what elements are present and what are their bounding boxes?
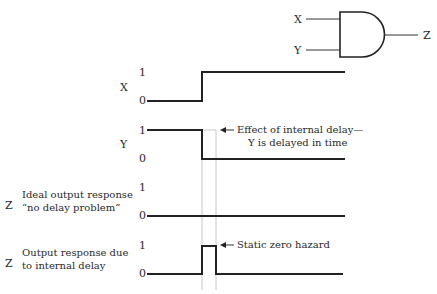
signal-z-ideal-low: 0 [139, 209, 146, 222]
gate-input-y-label: Y [293, 44, 302, 57]
delay-annotation-line1: Effect of internal delay— [237, 124, 363, 135]
signal-y-low: 0 [139, 152, 146, 165]
signal-y-high: 1 [139, 124, 146, 137]
signal-z-delayed-high: 1 [139, 239, 146, 252]
signal-x-low: 0 [139, 94, 146, 107]
signal-x-high: 1 [139, 66, 146, 79]
gate-output-z-label: Z [423, 29, 431, 42]
signal-z-delayed-name: Z [5, 257, 13, 270]
and-gate: X Y Z [293, 12, 431, 57]
signal-z-ideal-name: Z [5, 199, 13, 212]
signal-z-delayed: Z Output response due to internal delay … [5, 239, 343, 280]
signal-z-ideal-high: 1 [139, 181, 146, 194]
delay-annotation-line2: Y is delayed in time [247, 137, 347, 148]
signal-z-delayed-desc1: Output response due [22, 247, 128, 258]
signal-x-name: X [120, 81, 128, 94]
arrow-icon [220, 242, 226, 248]
signal-z-ideal-desc2: “no delay problem” [22, 202, 120, 213]
signal-z-delayed-low: 0 [139, 267, 146, 280]
signal-z-ideal-desc1: Ideal output response [22, 189, 133, 200]
signal-y: Y 1 0 Effect of internal delay— Y is del… [119, 124, 363, 165]
signal-y-name: Y [119, 138, 128, 151]
signal-x: X 1 0 [120, 66, 345, 107]
hazard-annotation: Static zero hazard [237, 239, 330, 250]
timing-diagram: X Y Z X 1 0 Y 1 0 Effect of internal del… [0, 0, 437, 294]
signal-z-ideal: Z Ideal output response “no delay proble… [5, 181, 345, 222]
arrow-icon [220, 127, 226, 133]
gate-input-x-label: X [294, 13, 302, 26]
signal-z-delayed-desc2: to internal delay [22, 260, 106, 271]
